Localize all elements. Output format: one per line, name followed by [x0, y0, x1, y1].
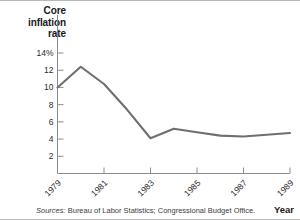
source-label: Sources: [36, 206, 66, 215]
x-tick-label: 1989 [275, 178, 296, 199]
y-tick-label: 14% [36, 48, 53, 58]
y-tick-label: 10 [44, 82, 54, 92]
y-tick-label: 4 [49, 134, 54, 144]
source-note: Sources: Bureau of Labor Statistics; Con… [36, 206, 255, 215]
x-tick-label: 1985 [182, 178, 203, 199]
chart-plot-area: 14%12108642 197919811983198519871989 [0, 1, 300, 220]
x-axis-ticks: 197919811983198519871989 [42, 168, 295, 199]
x-tick-label: 1983 [135, 178, 156, 199]
source-value: Bureau of Labor Statistics; Congressiona… [68, 206, 255, 215]
x-tick-label: 1981 [89, 178, 110, 199]
y-tick-label: 12 [44, 65, 54, 75]
x-tick-label: 1987 [228, 178, 249, 199]
data-line-core-inflation-rate [58, 67, 291, 138]
y-tick-label: 2 [49, 151, 54, 161]
y-tick-label: 8 [49, 100, 54, 110]
chart-figure: Core inflation rate 14%12108642 19791981… [0, 0, 300, 220]
y-tick-label: 6 [49, 117, 54, 127]
x-axis-title: Year [274, 204, 294, 215]
chart-footer: Sources: Bureau of Labor Statistics; Con… [0, 203, 300, 215]
y-axis-ticks: 14%12108642 [36, 48, 63, 161]
x-tick-label: 1979 [42, 178, 63, 199]
